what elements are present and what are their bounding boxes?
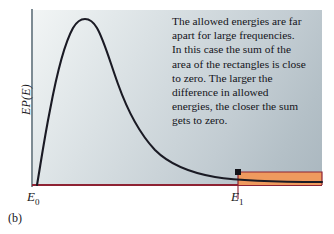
- annotation-line: gets to zero.: [172, 113, 322, 127]
- annotation-text-block: The allowed energies are far apart for l…: [172, 14, 322, 128]
- x-tick-label-e0-text: E: [27, 189, 35, 204]
- x-tick-label-e1-subscript: 1: [239, 197, 244, 207]
- annotation-line: area of the rectangles is close: [172, 57, 322, 71]
- annotation-line: The allowed energies are far: [172, 14, 322, 28]
- x-tick-label-e1-text: E: [231, 189, 239, 204]
- figure-panel-b: EP(E) E0 E1 The allowed energies are far…: [0, 0, 334, 234]
- annotation-line: to zero. The larger the: [172, 71, 322, 85]
- x-axis-baseline: [32, 184, 322, 186]
- x-tick-label-e1: E1: [231, 189, 243, 207]
- x-tick-label-e0: E0: [27, 189, 39, 207]
- annotation-line: apart for large frequencies.: [172, 28, 322, 42]
- annotation-line: In this case the sum of the: [172, 42, 322, 56]
- annotation-line: difference in allowed: [172, 85, 322, 99]
- panel-caption: (b): [8, 211, 22, 226]
- y-axis-label: EP(E): [19, 70, 34, 130]
- x-tick-label-e0-subscript: 0: [35, 197, 40, 207]
- annotation-line: energies, the closer the sum: [172, 99, 322, 113]
